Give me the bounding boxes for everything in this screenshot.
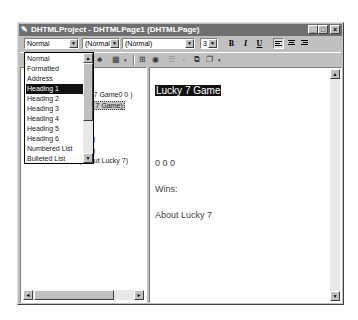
dropdown-item-heading-1[interactable]: Heading 1 (26, 84, 83, 94)
font-name-value: (Normal) (125, 40, 152, 47)
dropdown-item-heading-2[interactable]: Heading 2 (26, 94, 83, 104)
chevron-down-icon[interactable]: ▼ (208, 39, 217, 48)
italic-button[interactable]: I (240, 38, 251, 49)
scroll-up-button[interactable]: ▲ (330, 69, 340, 79)
about-lucky7-link[interactable]: About Lucky 7 (155, 210, 212, 220)
title-bar[interactable]: ✎ DHTMLProject - DHTMLPage1 (DHTMLPage) … (19, 24, 342, 36)
small-list-icon[interactable]: ▪ (178, 55, 189, 65)
scroll-right-button[interactable]: ► (134, 290, 144, 300)
page-editor-pane[interactable]: Lucky 7 Game 0 0 0 Wins: About Lucky 7 ▲… (149, 67, 342, 303)
paragraph-style-dropdown-list[interactable]: Normal Formatted Address Heading 1 Headi… (24, 52, 94, 164)
dropdown-item-formatted[interactable]: Formatted (26, 64, 83, 74)
dropdown-scroll-thumb[interactable] (83, 63, 93, 121)
font-size-value: 3 (203, 40, 207, 47)
horizontal-scrollbar[interactable]: ◄ ► (23, 290, 144, 300)
chevron-down-icon[interactable]: ▼ (110, 39, 119, 48)
chevron-down-icon[interactable]: ▼ (185, 39, 194, 48)
align-left-icon (275, 41, 282, 47)
font-size-combo[interactable]: 3 ▼ (200, 38, 218, 49)
dropdown-scrollbar[interactable]: ▲ ▼ (83, 53, 93, 163)
scroll-left-button[interactable]: ◄ (23, 290, 33, 300)
scroll-down-button[interactable]: ▼ (330, 291, 340, 301)
format-toolbar: Normal ▼ (Normal) ▼ (Normal) ▼ 3 ▼ B I U (20, 37, 341, 51)
dropdown-item-numbered-list[interactable]: Numbered List (26, 144, 83, 154)
dropdown-item-bulleted-list[interactable]: Bulleted List (26, 154, 83, 164)
maximize-button[interactable]: □ (318, 25, 328, 34)
absolute-position-icon[interactable]: ⧉ (191, 55, 202, 65)
vertical-scrollbar[interactable]: ▲ ▼ (330, 69, 340, 301)
dropdown-item-address[interactable]: Address (26, 74, 83, 84)
toolbar-separator (133, 55, 135, 65)
align-right-button[interactable] (299, 38, 310, 49)
paragraph-style-combo[interactable]: Normal ▼ (24, 38, 79, 49)
chevron-down-icon[interactable]: ▼ (69, 39, 78, 48)
dhtml-app-icon: ✎ (21, 26, 29, 34)
font-name-combo[interactable]: (Normal) ▼ (122, 38, 195, 49)
close-button[interactable]: × (330, 25, 340, 34)
font-style-value: (Normal) (85, 40, 112, 47)
dropdown-item-heading-5[interactable]: Heading 5 (26, 124, 83, 134)
paint-icon[interactable]: ♣ (94, 55, 105, 65)
bold-button[interactable]: B (226, 38, 237, 49)
dice-digits[interactable]: 0 0 0 (155, 158, 175, 168)
align-center-icon (288, 40, 295, 46)
table-dropdown-arrow[interactable]: ▾ (120, 55, 131, 65)
dropdown-item-heading-6[interactable]: Heading 6 (26, 134, 83, 144)
window-title: DHTMLProject - DHTMLPage1 (DHTMLPage) (31, 25, 199, 34)
list-icon[interactable]: ☰ (166, 55, 177, 65)
font-style-combo[interactable]: (Normal) ▼ (82, 38, 120, 49)
dropdown-item-normal[interactable]: Normal (26, 54, 83, 64)
minimize-button[interactable]: _ (308, 25, 318, 34)
align-center-button[interactable] (286, 38, 297, 49)
dropdown-scroll-down-button[interactable]: ▼ (83, 153, 93, 163)
dropdown-item-heading-3[interactable]: Heading 3 (26, 104, 83, 114)
heading-lucky7-game[interactable]: Lucky 7 Game (155, 85, 221, 96)
paragraph-style-value: Normal (27, 40, 50, 47)
order-dropdown-arrow[interactable]: ▾ (214, 55, 225, 65)
wins-label[interactable]: Wins: (155, 184, 178, 194)
scroll-thumb[interactable] (34, 290, 114, 300)
hyperlink-icon[interactable]: ◉ (150, 55, 161, 65)
insert-table-icon[interactable]: ⊞ (137, 55, 148, 65)
dropdown-scroll-up-button[interactable]: ▲ (83, 53, 93, 63)
dropdown-item-heading-4[interactable]: Heading 4 (26, 114, 83, 124)
align-left-button[interactable] (273, 38, 284, 49)
align-right-icon (301, 40, 308, 46)
underline-button[interactable]: U (254, 38, 265, 49)
